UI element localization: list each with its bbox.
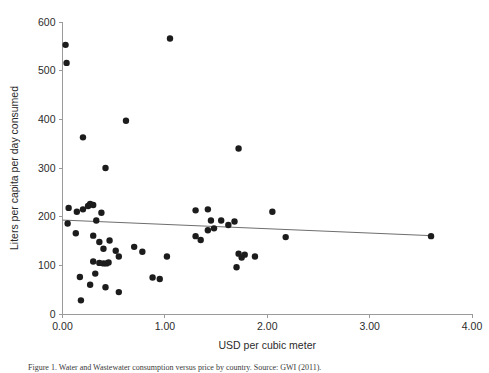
data-point: [87, 282, 93, 288]
y-tick-label: 400: [38, 113, 56, 125]
data-point: [211, 225, 217, 231]
scatter-plot: 01002003004005006000.001.002.003.004.00U…: [0, 0, 489, 373]
data-point: [428, 233, 434, 239]
x-tick-label: 3.00: [359, 320, 380, 332]
data-point: [164, 253, 170, 259]
data-point: [139, 249, 145, 255]
data-point: [62, 42, 68, 48]
data-point: [205, 227, 211, 233]
data-point: [192, 233, 198, 239]
data-point: [116, 289, 122, 295]
data-point: [65, 205, 71, 211]
data-point: [282, 234, 288, 240]
data-point: [157, 276, 163, 282]
data-point: [235, 145, 241, 151]
data-point: [205, 206, 211, 212]
x-tick-label: 2.00: [257, 320, 278, 332]
data-point: [100, 246, 106, 252]
y-tick-label: 600: [38, 16, 56, 28]
data-point: [269, 209, 275, 215]
data-point: [102, 165, 108, 171]
data-point: [116, 253, 122, 259]
data-point: [63, 60, 69, 66]
data-point: [90, 202, 96, 208]
data-point: [80, 134, 86, 140]
data-point: [106, 237, 112, 243]
data-point: [92, 270, 98, 276]
data-point: [73, 230, 79, 236]
y-axis-title: Liters per capita per day consumed: [8, 86, 20, 250]
data-point: [131, 244, 137, 250]
data-point: [90, 232, 96, 238]
trend-line: [63, 220, 432, 236]
y-tick-label: 0: [50, 308, 56, 320]
data-point: [233, 264, 239, 270]
data-point: [149, 274, 155, 280]
data-point: [252, 253, 258, 259]
x-tick-label: 1.00: [155, 320, 176, 332]
data-point: [78, 297, 84, 303]
figure-container: 01002003004005006000.001.002.003.004.00U…: [0, 0, 489, 373]
data-point: [90, 258, 96, 264]
x-axis-title: USD per cubic meter: [219, 339, 317, 351]
y-tick-label: 300: [38, 162, 56, 174]
data-point: [105, 259, 111, 265]
y-tick-label: 200: [38, 210, 56, 222]
data-point: [102, 284, 108, 290]
data-point: [113, 248, 119, 254]
data-point: [192, 207, 198, 213]
data-point: [98, 210, 104, 216]
data-point: [225, 222, 231, 228]
data-point: [238, 254, 244, 260]
data-point: [77, 274, 83, 280]
data-point: [218, 217, 224, 223]
figure-caption: Figure 1. Water and Wastewater consumpti…: [28, 362, 478, 373]
y-tick-label: 100: [38, 259, 56, 271]
y-tick-label: 500: [38, 64, 56, 76]
data-point: [96, 239, 102, 245]
data-point: [64, 220, 70, 226]
data-points-group: [62, 35, 434, 303]
data-point: [93, 217, 99, 223]
x-tick-label: 4.00: [462, 320, 483, 332]
data-point: [123, 118, 129, 124]
data-point: [198, 237, 204, 243]
data-point: [74, 209, 80, 215]
data-point: [208, 217, 214, 223]
data-point: [167, 35, 173, 41]
data-point: [231, 218, 237, 224]
x-tick-label: 0.00: [52, 320, 73, 332]
